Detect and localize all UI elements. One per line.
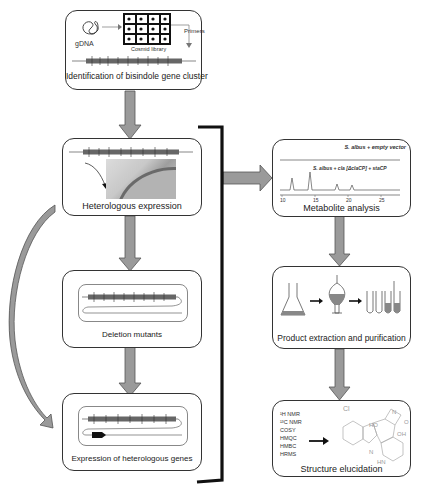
step-heterologous-expression: Heterologous expression xyxy=(62,138,202,216)
step-identification: gDNA Cosmid library Primers Id xyxy=(65,10,202,90)
gdna-label: gDNA xyxy=(75,40,94,47)
step-expression-heterologous-genes-label: Expression of heterologous genes xyxy=(63,454,201,463)
step-product-extraction: Product extraction and purification xyxy=(272,266,411,349)
arrow-down-5 xyxy=(329,349,350,400)
trace-top-label: S. albus + empty vector xyxy=(344,144,406,150)
step-identification-label: Identification of bisindole gene cluster xyxy=(66,71,201,81)
atom-label: Cl xyxy=(343,405,350,412)
cosmid-library-label: Cosmid library xyxy=(131,46,166,52)
trace-bottom-label: S. albus + cla [ΔclaCP] + staCP xyxy=(313,165,387,171)
gene-cluster-map xyxy=(69,145,193,157)
step-structure-elucidation-label: Structure elucidation xyxy=(273,464,410,474)
step-metabolite-analysis: S. albus + empty vector S. albus + cla [… xyxy=(272,139,411,217)
method-item: ¹³C NMR xyxy=(280,418,302,426)
method-item: ¹H NMR xyxy=(280,410,302,418)
method-item: HMQC xyxy=(280,434,302,442)
arrow-icon xyxy=(309,437,329,445)
step-heterologous-expression-label: Heterologous expression xyxy=(63,201,201,211)
atom-label: N xyxy=(392,409,396,415)
plasmid-map xyxy=(82,411,186,443)
atom-label: O xyxy=(404,419,409,425)
gene-cluster-map xyxy=(72,54,196,66)
arrow-down-2 xyxy=(119,216,141,271)
culture-plate-photo xyxy=(106,159,176,199)
atom-label: OH xyxy=(397,431,406,437)
hplc-chromatogram xyxy=(280,152,400,202)
step-deletion-mutants-label: Deletion mutants xyxy=(63,330,201,339)
atom-label: N xyxy=(369,449,373,455)
method-list: ¹H NMR ¹³C NMR COSY HMQC HMBC HRMS xyxy=(280,410,302,458)
arrow-down-1 xyxy=(119,91,141,139)
cosmid-library-grid xyxy=(123,13,171,45)
flask-icon xyxy=(281,283,305,315)
arrow-icon xyxy=(102,24,122,30)
atom-label: HO xyxy=(369,422,378,428)
step-metabolite-analysis-label: Metabolite analysis xyxy=(273,203,410,213)
step-structure-elucidation: ¹H NMR ¹³C NMR COSY HMQC HMBC HRMS Cl HO… xyxy=(272,400,411,477)
plasmid-panel xyxy=(78,406,188,446)
arrow-right-bracket xyxy=(223,165,272,191)
primers-label: Primers xyxy=(184,28,205,34)
plasmid-map xyxy=(82,289,186,319)
arrow-down-4 xyxy=(329,216,350,266)
method-item: HRMS xyxy=(280,450,302,458)
arrow-icon xyxy=(171,19,201,49)
arrow-down-3 xyxy=(119,346,141,396)
gdna-icon xyxy=(78,17,102,39)
plasmid-panel xyxy=(78,284,188,322)
step-deletion-mutants: Deletion mutants xyxy=(62,270,202,348)
extraction-icons xyxy=(279,275,409,325)
step-product-extraction-label: Product extraction and purification xyxy=(273,333,410,343)
method-item: COSY xyxy=(280,426,302,434)
arrow-curved-left xyxy=(9,205,55,428)
step-expression-heterologous-genes: Expression of heterologous genes xyxy=(62,393,202,471)
method-item: HMBC xyxy=(280,442,302,450)
separatory-funnel-icon xyxy=(329,275,345,313)
